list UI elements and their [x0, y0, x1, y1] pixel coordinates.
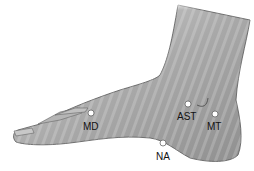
- label-ast: AST: [177, 111, 196, 122]
- label-mt: MT: [207, 121, 221, 132]
- foot-diagram: MD AST MT NA: [0, 0, 254, 171]
- label-md: MD: [83, 121, 99, 132]
- label-na: NA: [156, 151, 170, 162]
